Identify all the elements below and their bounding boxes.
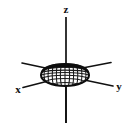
coordinate-spheroid-figure: z y x — [0, 0, 133, 126]
figure-canvas: z y x — [0, 0, 133, 126]
z-axis-label: z — [64, 3, 69, 15]
x-axis-label: x — [15, 83, 21, 95]
y-axis-label: y — [116, 80, 122, 92]
oblate-spheroid — [41, 64, 89, 87]
